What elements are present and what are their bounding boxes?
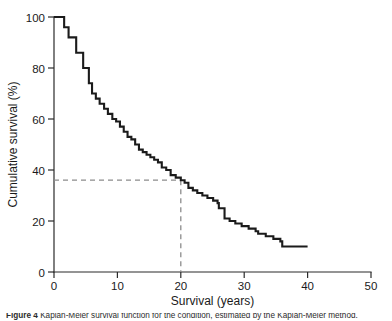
y-tick-label-80: 80 bbox=[32, 63, 45, 75]
x-axis-tick-labels: 0 10 20 30 40 50 bbox=[51, 280, 378, 292]
y-tick-label-40: 40 bbox=[32, 165, 45, 177]
x-tick-label-20: 20 bbox=[174, 280, 187, 292]
y-tick-label-100: 100 bbox=[26, 12, 45, 24]
x-tick-label-50: 50 bbox=[365, 280, 378, 292]
y-axis-title: Cumulative survival (%) bbox=[6, 81, 20, 207]
x-tick-label-40: 40 bbox=[301, 280, 314, 292]
figure-caption-strip: Figure 4 Kaplan-Meier survival function … bbox=[0, 313, 392, 321]
y-tick-label-60: 60 bbox=[32, 114, 45, 126]
figure-caption-prefix: Figure 4 bbox=[6, 313, 38, 320]
median-reference-lines bbox=[54, 180, 181, 272]
y-axis-ticks bbox=[48, 17, 54, 272]
y-axis-tick-labels: 100 80 60 40 20 0 bbox=[26, 12, 45, 279]
x-tick-label-10: 10 bbox=[111, 280, 124, 292]
figure-caption: Figure 4 Kaplan-Meier survival function … bbox=[6, 313, 386, 320]
x-axis-title: Survival (years) bbox=[171, 294, 254, 308]
figure-caption-rest: Kaplan-Meier survival function for the c… bbox=[38, 313, 358, 320]
y-tick-label-0: 0 bbox=[39, 267, 45, 279]
axes-group bbox=[54, 17, 371, 272]
x-axis-ticks bbox=[54, 272, 371, 278]
x-tick-label-0: 0 bbox=[51, 280, 57, 292]
y-tick-label-20: 20 bbox=[32, 216, 45, 228]
x-tick-label-30: 30 bbox=[238, 280, 251, 292]
survival-curve-chart: 100 80 60 40 20 0 0 10 20 30 40 50 bbox=[0, 0, 392, 321]
figure-container: 100 80 60 40 20 0 0 10 20 30 40 50 bbox=[0, 0, 392, 321]
